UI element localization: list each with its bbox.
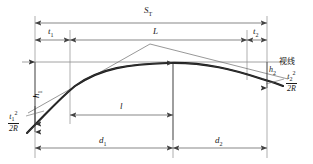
label-l-small: l <box>120 102 123 111</box>
label-h1-sub: 1 <box>37 91 43 94</box>
callout-fraction-left-numerator: t12 <box>8 110 19 122</box>
label-l-small-base: l <box>120 101 123 111</box>
label-t1-sub: 1 <box>51 32 54 38</box>
callout-fraction-right: t22 2R <box>286 70 297 93</box>
label-d1: d1 <box>99 136 107 147</box>
label-t2: t2 <box>253 27 259 38</box>
label-h1-base: h <box>31 94 41 99</box>
callout-fraction-right-num-sub: 2 <box>290 76 293 82</box>
vertical-curve-highlight <box>27 63 283 133</box>
callout-fraction-right-numerator: t22 <box>286 70 297 82</box>
diagram-canvas <box>0 0 313 164</box>
label-L-base: L <box>153 26 158 36</box>
label-sight-line-cn: 视线 <box>279 58 295 66</box>
label-L: L <box>153 27 158 36</box>
callout-fraction-left-num-sup: 2 <box>15 110 18 116</box>
callout-fraction-left-num-sub: 1 <box>12 116 15 122</box>
vertical-guide-lines <box>35 16 267 158</box>
label-s-total-sub: T <box>149 11 153 17</box>
label-h2-sub: 2 <box>273 70 276 76</box>
callout-fraction-right-denominator: 2R <box>286 84 297 93</box>
label-h2: h2 <box>269 66 276 76</box>
callout-leaders <box>26 79 284 116</box>
label-t1: t1 <box>48 27 54 38</box>
tangent-grade-lines <box>28 44 288 113</box>
callout-fraction-left: t12 2R <box>8 110 19 133</box>
callout-fraction-right-num-sup: 2 <box>293 70 296 76</box>
callout-fraction-left-denominator: 2R <box>8 124 19 133</box>
label-d1-sub: 1 <box>104 141 107 147</box>
label-t2-sub: 2 <box>256 32 259 38</box>
label-d2: d2 <box>215 136 223 147</box>
label-h1: h1 <box>31 91 43 99</box>
label-d2-sub: 2 <box>220 141 223 147</box>
vertical-curve-diagram: ST t1 L t2 l d1 d2 h1 h2 视线 t12 2R t22 <box>0 0 313 164</box>
label-s-total: ST <box>144 6 152 17</box>
